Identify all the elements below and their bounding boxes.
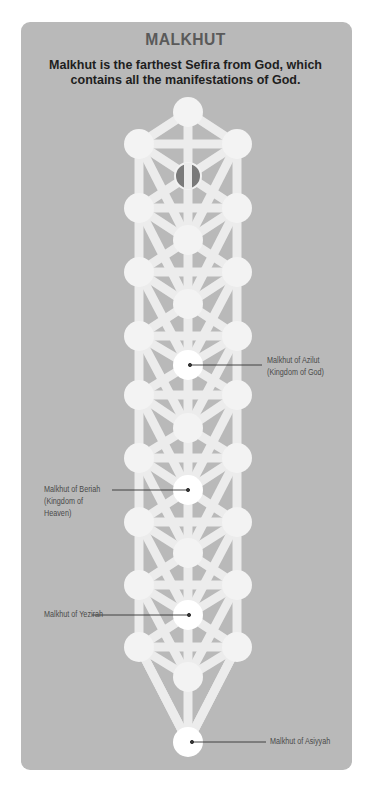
callout-azilut-line1: Malkhut of Azilut bbox=[267, 354, 324, 366]
sefira-node-right bbox=[222, 257, 252, 287]
callout-dot bbox=[188, 363, 191, 366]
sefira-node-left bbox=[124, 443, 154, 473]
daat-pillar-segment bbox=[184, 163, 192, 189]
tree-of-life-chain bbox=[0, 0, 371, 786]
callout-dot bbox=[187, 613, 190, 616]
sefira-node-left bbox=[124, 380, 154, 410]
callout-azilut: Malkhut of Azilut (Kingdom of God) bbox=[267, 354, 324, 378]
sefira-node-right bbox=[222, 443, 252, 473]
sefira-node-center bbox=[173, 662, 203, 692]
sefira-node-right bbox=[222, 129, 252, 159]
sefira-node-left bbox=[124, 129, 154, 159]
sefira-node-left bbox=[124, 632, 154, 662]
callout-yezirah: Malkhut of Yezirah bbox=[44, 608, 103, 620]
callout-beriah-line2: (Kingdom of bbox=[44, 495, 100, 507]
callout-dot bbox=[190, 740, 193, 743]
sefira-node-right bbox=[222, 507, 252, 537]
sefira-node-left bbox=[124, 570, 154, 600]
sefira-node-center bbox=[173, 225, 203, 255]
sefira-node-right bbox=[222, 321, 252, 351]
sefira-node-left bbox=[124, 193, 154, 223]
callout-asiyyah-line1: Malkhut of Asiyyah bbox=[270, 735, 330, 747]
sefira-node-right bbox=[222, 570, 252, 600]
callout-yezirah-line1: Malkhut of Yezirah bbox=[44, 608, 103, 620]
sefira-node-left bbox=[124, 257, 154, 287]
sefira-node-right bbox=[222, 632, 252, 662]
callout-beriah-line3: Heaven) bbox=[44, 507, 100, 519]
callout-asiyyah: Malkhut of Asiyyah bbox=[270, 735, 330, 747]
sefira-node-right bbox=[222, 193, 252, 223]
callout-dot bbox=[186, 488, 189, 491]
sefira-node-center bbox=[173, 97, 203, 127]
callout-beriah-line1: Malkhut of Beriah bbox=[44, 483, 100, 495]
sefira-node-center bbox=[173, 413, 203, 443]
callout-azilut-line2: (Kingdom of God) bbox=[267, 366, 324, 378]
sefira-node-center bbox=[173, 538, 203, 568]
sefira-node-left bbox=[124, 321, 154, 351]
sefira-node-left bbox=[124, 507, 154, 537]
sefira-node-right bbox=[222, 380, 252, 410]
callout-beriah: Malkhut of Beriah (Kingdom of Heaven) bbox=[44, 483, 100, 519]
sefira-node-center bbox=[173, 289, 203, 319]
